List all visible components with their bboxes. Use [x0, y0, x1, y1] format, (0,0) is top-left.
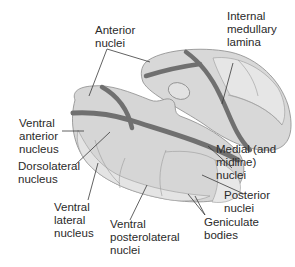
- label-ventral-lateral-nucleus: Ventral lateral nucleus: [54, 201, 94, 240]
- label-anterior-nuclei: Anterior nuclei: [95, 24, 135, 50]
- label-posterior-nuclei: Posterior nuclei: [224, 189, 270, 215]
- label-ventral-anterior-nucleus: Ventral anterior nucleus: [19, 117, 59, 156]
- label-ventral-posterolateral-nuclei: Ventral posterolateral nuclei: [110, 218, 180, 257]
- thalamus-diagram: Anterior nuclei Internal medullary lamin…: [0, 0, 295, 267]
- leader-anterior-2: [107, 49, 150, 62]
- label-geniculate-bodies: Geniculate bodies: [204, 216, 259, 242]
- label-dorsolateral-nucleus: Dorsolateral nucleus: [18, 160, 80, 186]
- label-internal-medullary-lamina: Internal medullary lamina: [227, 10, 277, 49]
- label-medial-midline-nuclei: Medial (and midline) nuclei: [216, 143, 276, 182]
